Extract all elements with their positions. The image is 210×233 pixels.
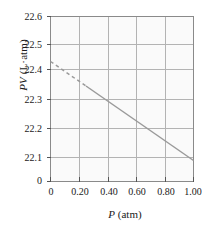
x-tick-label-0-80: 0.80 — [157, 187, 175, 197]
x-tick-label-0-40: 0.40 — [100, 187, 118, 197]
x-axis-title: P (atm) — [46, 208, 204, 220]
y-axis-title-symbol: PV — [17, 77, 29, 91]
x-axis-tick-labels: 0 0.20 0.40 0.60 0.80 1.00 — [0, 0, 210, 233]
x-axis-title-units: (atm) — [115, 208, 142, 220]
y-axis-title: PV (L·atm) — [17, 0, 29, 130]
x-tick-label-0-20: 0.20 — [71, 187, 89, 197]
x-tick-label-0-60: 0.60 — [128, 187, 146, 197]
y-axis-title-units: (L·atm) — [17, 39, 29, 77]
x-tick-label-0: 0 — [49, 187, 54, 197]
chart-figure: 22.6 22.5 22.4 22.3 22.2 22.1 0 0 0.20 0… — [0, 0, 210, 233]
x-tick-label-1-00: 1.00 — [184, 187, 202, 197]
